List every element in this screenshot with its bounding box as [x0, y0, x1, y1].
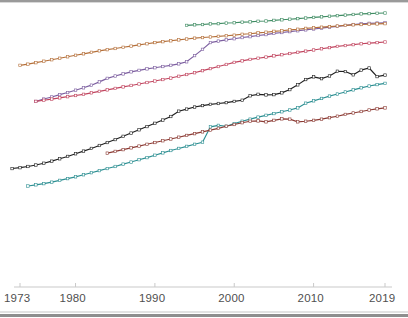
- series-teal-marker: [209, 126, 212, 129]
- series-black-marker: [296, 84, 299, 87]
- series-magenta-marker: [209, 67, 212, 70]
- series-black-marker: [273, 93, 276, 96]
- series-orange-marker: [66, 56, 69, 59]
- figure-bottom-border: [0, 314, 408, 317]
- series-teal-marker: [66, 177, 69, 180]
- series-magenta-marker: [304, 50, 307, 53]
- series-darkred-marker: [328, 116, 331, 119]
- series-purple-marker: [225, 39, 228, 42]
- series-darkred-marker: [130, 147, 133, 150]
- series-purple-marker: [233, 37, 236, 40]
- series-black-marker: [384, 74, 387, 77]
- series-teal-marker: [201, 141, 204, 144]
- series-green-marker: [233, 22, 236, 25]
- series-black-marker: [249, 95, 252, 98]
- series-green-marker: [193, 24, 196, 27]
- series-darkred-marker: [384, 107, 387, 110]
- series-teal-marker: [312, 100, 315, 103]
- series-black-marker: [35, 164, 38, 167]
- series-orange-marker: [281, 29, 284, 32]
- series-orange-marker: [217, 35, 220, 38]
- series-orange-marker: [130, 45, 133, 48]
- series-magenta-marker: [146, 81, 149, 84]
- series-purple-marker: [209, 41, 212, 44]
- series-black-marker: [265, 94, 268, 97]
- series-orange-marker: [312, 27, 315, 30]
- series-green-marker: [344, 14, 347, 17]
- series-magenta-marker: [177, 75, 180, 78]
- series-darkred-marker: [368, 109, 371, 112]
- series-black-marker: [233, 100, 236, 103]
- series-green-marker: [265, 20, 268, 23]
- series-darkred-marker: [273, 119, 276, 122]
- series-green-marker: [360, 13, 363, 16]
- series-darkred-marker: [289, 118, 292, 121]
- series-darkred-marker: [185, 134, 188, 137]
- series-purple-marker: [146, 68, 149, 71]
- series-teal-marker: [154, 154, 157, 157]
- series-magenta-line: [36, 42, 385, 101]
- series-orange-marker: [289, 29, 292, 32]
- series-black-marker: [257, 93, 260, 96]
- series-darkred-marker: [209, 129, 212, 132]
- series-teal-marker: [27, 185, 30, 188]
- series-orange-marker: [360, 23, 363, 26]
- series-black-marker: [66, 155, 69, 158]
- series-black-marker: [154, 122, 157, 125]
- series-orange-marker: [138, 44, 141, 47]
- series-magenta-marker: [193, 71, 196, 74]
- series-teal-marker: [90, 171, 93, 174]
- series-green-line: [187, 13, 385, 25]
- series-teal-marker: [82, 174, 85, 177]
- series-black-marker: [138, 129, 141, 132]
- series-black-marker: [19, 166, 22, 169]
- series-magenta-marker: [58, 97, 61, 100]
- series-magenta-marker: [368, 42, 371, 45]
- series-teal-marker: [384, 82, 387, 85]
- series-black-marker: [82, 150, 85, 153]
- series-magenta-marker: [352, 43, 355, 46]
- series-teal-marker: [360, 87, 363, 90]
- series-magenta-marker: [336, 45, 339, 48]
- series-teal-marker: [50, 181, 53, 184]
- series-green-marker: [320, 16, 323, 19]
- series-black-marker: [209, 103, 212, 106]
- series-green-marker: [296, 17, 299, 20]
- series-magenta-marker: [74, 94, 77, 97]
- series-magenta-marker: [225, 63, 228, 66]
- series-black-marker: [193, 106, 196, 109]
- series-black-marker: [43, 162, 46, 165]
- series-darkred-marker: [114, 150, 117, 153]
- series-purple-marker: [154, 66, 157, 69]
- series-orange-marker: [27, 63, 30, 66]
- series-black-marker: [114, 138, 117, 141]
- series-black-marker: [177, 110, 180, 113]
- x-axis: [14, 283, 392, 287]
- series-teal-marker: [336, 93, 339, 96]
- series-teal-marker: [344, 91, 347, 94]
- series-orange-marker: [82, 53, 85, 56]
- series-green-marker: [241, 21, 244, 24]
- series-teal-marker: [257, 116, 260, 119]
- series-teal-marker: [35, 184, 38, 187]
- series-magenta-marker: [130, 84, 133, 87]
- series-black-marker: [201, 104, 204, 107]
- series-magenta-marker: [201, 69, 204, 72]
- series-purple-marker: [58, 93, 61, 96]
- series-magenta-marker: [43, 99, 46, 102]
- series-magenta-marker: [384, 41, 387, 44]
- series-teal-marker: [217, 124, 220, 127]
- series-magenta-marker: [162, 78, 165, 81]
- series-teal-marker: [185, 145, 188, 148]
- series-purple-marker: [185, 61, 188, 64]
- series-darkred-marker: [162, 140, 165, 143]
- series-purple-marker: [201, 48, 204, 51]
- series-magenta-marker: [328, 46, 331, 49]
- series-teal-marker: [170, 149, 173, 152]
- series-purple-marker: [114, 75, 117, 78]
- series-teal-marker: [296, 107, 299, 110]
- series-green-marker: [289, 18, 292, 21]
- series-magenta-marker: [281, 53, 284, 56]
- series-orange-marker: [106, 48, 109, 51]
- series-magenta-marker: [90, 92, 93, 95]
